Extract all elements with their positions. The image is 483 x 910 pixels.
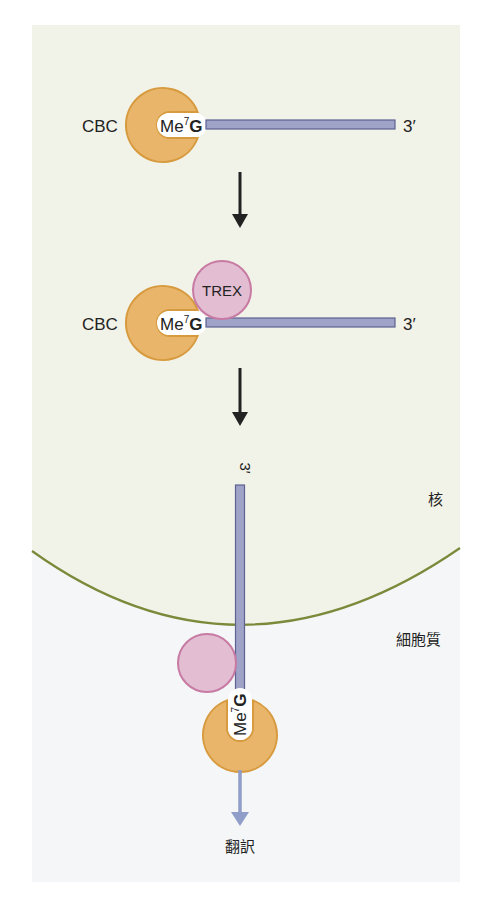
mrna-strand bbox=[206, 120, 395, 129]
cbc-label: CBC bbox=[82, 117, 118, 136]
cap-label: Me7G bbox=[160, 116, 202, 136]
nucleus-label: 核 bbox=[428, 491, 443, 508]
mrna-export-diagram: CBC Me7G 3′ CBC Me7G TREX 3′ 3′ bbox=[0, 0, 483, 910]
three-prime-label: 3′ bbox=[403, 315, 416, 334]
mrna-strand bbox=[236, 485, 245, 700]
cap-label: Me7G bbox=[160, 314, 202, 334]
translation-label: 翻訳 bbox=[225, 838, 255, 855]
trex-label: TREX bbox=[202, 282, 242, 299]
export-factor-protein bbox=[178, 634, 236, 692]
cbc-label: CBC bbox=[82, 315, 118, 334]
three-prime-label: 3′ bbox=[237, 462, 254, 473]
mrna-strand bbox=[206, 318, 395, 327]
three-prime-label: 3′ bbox=[403, 117, 416, 136]
cap-label: Me7G bbox=[230, 694, 250, 736]
cytoplasm-label: 細胞質 bbox=[396, 631, 441, 648]
